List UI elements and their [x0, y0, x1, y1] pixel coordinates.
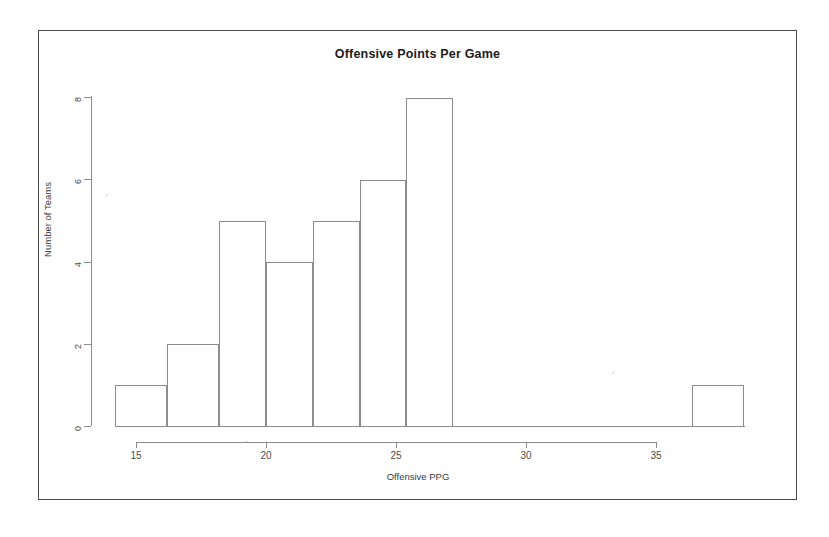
y-tick-2: [84, 344, 91, 345]
y-tick-6: [84, 179, 91, 180]
x-tick-label-20: 20: [251, 450, 281, 461]
histogram-bar: [313, 221, 360, 426]
y-tick-0: [84, 426, 91, 427]
x-tick-15: [136, 442, 137, 448]
x-tick-label-30: 30: [511, 450, 541, 461]
scan-speck: [612, 372, 614, 374]
x-tick-label-15: 15: [121, 450, 151, 461]
scan-speck: [245, 441, 248, 442]
x-tick-20: [266, 442, 267, 448]
y-tick-4: [84, 262, 91, 263]
x-tick-label-25: 25: [381, 450, 411, 461]
histogram-bar: [406, 98, 453, 426]
y-tick-label-4: 4: [73, 262, 83, 286]
y-tick-label-8: 8: [73, 97, 83, 121]
histogram-baseline: [115, 426, 745, 427]
histogram-bar: [692, 385, 744, 426]
histogram-bar: [115, 385, 167, 426]
scan-speck: [106, 194, 108, 196]
histogram-bar: [219, 221, 266, 426]
y-tick-8: [84, 97, 91, 98]
plot-area: 0 2 4 6 8 Number of Teams 15 20 25 30 35…: [0, 0, 829, 537]
x-tick-label-35: 35: [641, 450, 671, 461]
page-canvas: Offensive Points Per Game 0 2 4 6 8 Numb…: [0, 0, 829, 537]
y-tick-label-2: 2: [73, 344, 83, 368]
y-tick-label-0: 0: [73, 426, 83, 450]
histogram-bar: [360, 180, 407, 426]
histogram-bar: [266, 262, 313, 426]
x-axis-title: Offensive PPG: [288, 471, 548, 482]
y-axis-line: [91, 96, 92, 426]
y-axis-title: Number of Teams: [42, 160, 53, 280]
x-tick-25: [396, 442, 397, 448]
x-tick-35: [656, 442, 657, 448]
histogram-bar: [167, 344, 219, 426]
y-tick-label-6: 6: [73, 179, 83, 203]
x-tick-30: [526, 442, 527, 448]
